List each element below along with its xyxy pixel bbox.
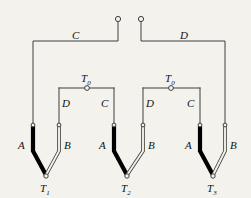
tc2-junction-subscript: 2 xyxy=(127,189,131,197)
tc2-leg-a-terminal xyxy=(112,123,116,127)
tc1-leg-a-terminal xyxy=(31,123,35,127)
bridge-1-right-label: C xyxy=(101,98,108,109)
tc1-junction-label: T1 xyxy=(40,183,50,197)
tc1-leg-a-label: A xyxy=(18,140,25,151)
tc2-leg-b xyxy=(127,126,143,175)
thermocouple-2 xyxy=(112,123,145,178)
tc2-leg-b-label: B xyxy=(148,140,155,151)
bridge-2-node-label: T0 xyxy=(165,73,175,87)
thermocouple-1 xyxy=(31,123,61,178)
tc3-leg-b-label: B xyxy=(230,140,237,151)
tc2-leg-a-label: A xyxy=(99,140,106,151)
circuit-schematic-svg xyxy=(0,0,251,198)
top-terminals xyxy=(115,16,143,21)
tc1-leg-b xyxy=(46,126,59,175)
thermocouple-3 xyxy=(198,123,227,178)
bridge-2-node-subscript: 0 xyxy=(171,79,175,87)
bridge-1-node-label: T0 xyxy=(81,73,91,87)
tc1-leg-b-terminal xyxy=(57,123,61,127)
bridge-1-left-label: D xyxy=(62,98,70,109)
bridge-1-node-subscript: 0 xyxy=(87,79,91,87)
terminal-left-circle xyxy=(115,16,120,21)
bridge-2-right-label: C xyxy=(187,98,194,109)
tc1-leg-b-label: B xyxy=(64,140,71,151)
tc3-junction-node xyxy=(211,174,215,178)
bridge-2-left-label: D xyxy=(146,98,154,109)
terminal-right-circle xyxy=(138,16,143,21)
tc3-leg-a-label: A xyxy=(185,140,192,151)
tc2-junction-node xyxy=(125,174,129,178)
tc3-junction-label: T3 xyxy=(207,183,217,197)
tc2-leg-b-terminal xyxy=(141,123,145,127)
tc1-junction-node xyxy=(44,174,48,178)
tc2-leg-b-core xyxy=(127,126,143,175)
tc1-leg-a xyxy=(33,126,46,175)
thermocouple-circuit-figure: C D T0 D C T0 D C A B T1 A B T2 A B T3 xyxy=(0,0,251,198)
tc3-leg-b xyxy=(213,126,225,175)
bus-label-c: C xyxy=(72,30,79,41)
tc3-leg-b-terminal xyxy=(223,123,227,127)
tc3-leg-a xyxy=(200,126,213,175)
tc2-junction-label: T2 xyxy=(121,183,131,197)
bus-label-d: D xyxy=(180,30,188,41)
tc3-leg-a-terminal xyxy=(198,123,202,127)
tc1-junction-subscript: 1 xyxy=(46,189,50,197)
tc2-leg-a xyxy=(114,126,127,175)
tc3-junction-subscript: 3 xyxy=(213,189,217,197)
